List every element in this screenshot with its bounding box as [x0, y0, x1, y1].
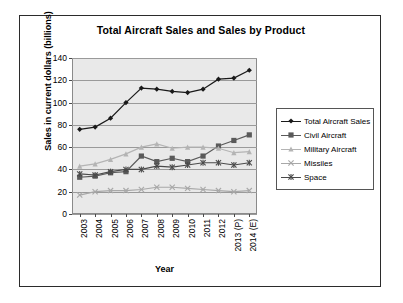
- x-tick-label: 2013 (P): [233, 219, 243, 252]
- y-tick-label: 20: [58, 187, 67, 197]
- x-tick-label: 2011: [202, 219, 212, 237]
- x-tick-mark: [95, 214, 96, 217]
- y-tick-mark: [69, 214, 72, 215]
- legend-item[interactable]: Space: [281, 170, 369, 184]
- square-marker: [200, 153, 205, 158]
- square-marker: [170, 156, 175, 161]
- series-total-aircraft-sales: [77, 68, 252, 132]
- diamond-marker: [185, 90, 190, 95]
- y-tick-label: 40: [58, 164, 67, 174]
- x-tick-mark: [172, 214, 173, 217]
- legend-marker-asterisk-icon: [281, 171, 301, 183]
- legend-marker-cross-icon: [281, 157, 301, 169]
- plot-area: 0204060801001201402003200420052006200720…: [72, 58, 257, 214]
- diamond-marker: [154, 87, 159, 92]
- x-tick-label: 2014 (E): [248, 219, 258, 252]
- x-tick-label: 2012: [217, 219, 227, 238]
- series-missiles: [77, 185, 252, 198]
- chart-frame: Total Aircraft Sales and Sales by Produc…: [19, 15, 381, 287]
- legend-item[interactable]: Total Aircraft Sales: [281, 114, 369, 128]
- legend-marker-square-icon: [281, 129, 301, 141]
- legend-item[interactable]: Military Aircraft: [281, 142, 369, 156]
- legend-item[interactable]: Missiles: [281, 156, 369, 170]
- chart-legend: Total Aircraft SalesCivil AircraftMilita…: [276, 108, 374, 190]
- x-tick-label: 2003: [79, 219, 89, 238]
- x-axis-title: Year: [72, 264, 257, 274]
- cross-marker: [288, 160, 293, 165]
- square-marker: [231, 138, 236, 143]
- x-tick-label: 2008: [156, 219, 166, 238]
- x-tick-mark: [157, 214, 158, 217]
- x-tick-mark: [126, 214, 127, 217]
- x-tick-label: 2006: [125, 219, 135, 238]
- x-tick-mark: [188, 214, 189, 217]
- square-marker: [247, 132, 252, 137]
- diamond-marker: [288, 118, 293, 123]
- y-tick-label: 140: [53, 53, 67, 63]
- y-tick-label: 100: [53, 98, 67, 108]
- x-tick-mark: [141, 214, 142, 217]
- x-tick-mark: [111, 214, 112, 217]
- y-tick-label: 120: [53, 75, 67, 85]
- diamond-marker: [231, 75, 236, 80]
- legend-label: Civil Aircraft: [304, 131, 346, 140]
- square-marker: [288, 132, 293, 137]
- y-axis-title: Sales in current dollars (billions): [43, 6, 53, 156]
- x-tick-label: 2009: [171, 219, 181, 238]
- legend-item[interactable]: Civil Aircraft: [281, 128, 369, 142]
- y-tick-label: 80: [58, 120, 67, 130]
- x-tick-mark: [249, 214, 250, 217]
- legend-label: Total Aircraft Sales: [304, 117, 370, 126]
- legend-marker-triangle-icon: [281, 143, 301, 155]
- series-layer: [72, 58, 257, 214]
- y-tick-label: 60: [58, 142, 67, 152]
- series-space: [77, 160, 252, 178]
- x-tick-label: 2004: [94, 219, 104, 238]
- legend-label: Military Aircraft: [304, 145, 356, 154]
- diamond-marker: [247, 68, 252, 73]
- legend-label: Space: [304, 173, 327, 182]
- y-gridline: [72, 214, 257, 215]
- x-tick-mark: [234, 214, 235, 217]
- x-tick-mark: [80, 214, 81, 217]
- triangle-marker: [123, 151, 128, 156]
- diamond-marker: [77, 127, 82, 132]
- x-tick-label: 2010: [187, 219, 197, 238]
- legend-label: Missiles: [304, 159, 332, 168]
- diamond-marker: [93, 124, 98, 129]
- x-tick-label: 2005: [110, 219, 120, 238]
- x-tick-mark: [218, 214, 219, 217]
- y-tick-label: 0: [62, 209, 67, 219]
- diamond-marker: [170, 89, 175, 94]
- square-marker: [139, 153, 144, 158]
- asterisk-marker: [288, 174, 293, 180]
- series-military-aircraft: [77, 141, 252, 168]
- chart-title: Total Aircraft Sales and Sales by Produc…: [20, 24, 382, 36]
- x-tick-label: 2007: [140, 219, 150, 238]
- legend-marker-diamond-icon: [281, 115, 301, 127]
- x-tick-mark: [203, 214, 204, 217]
- triangle-marker: [288, 146, 293, 151]
